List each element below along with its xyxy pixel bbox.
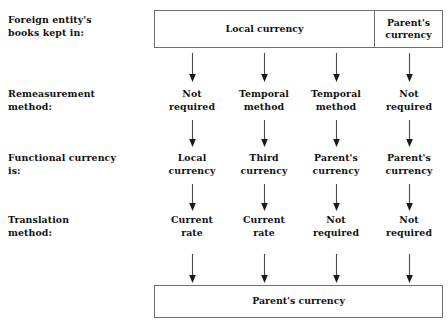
arrow-down-icon: [331, 120, 342, 148]
arrow-down-icon: [331, 254, 342, 284]
arrow-down-icon: [259, 120, 270, 148]
arrow-down-icon: [259, 184, 270, 212]
bottom-box-label: Parent's currency: [155, 286, 442, 317]
row-label-functional-currency: Functional currency is:: [8, 152, 148, 177]
functional-currency-col-4: Parent's currency: [367, 152, 448, 177]
arrow-down-icon: [331, 184, 342, 212]
arrow-down-icon: [404, 254, 415, 284]
row-label-books-kept-in: Foreign entity's books kept in:: [8, 14, 148, 39]
arrow-down-icon: [259, 254, 270, 284]
top-box-cell-local-currency: Local currency: [155, 11, 374, 47]
remeasurement-method-col-3: Temporal method: [294, 88, 378, 113]
arrow-down-icon: [331, 53, 342, 83]
remeasurement-method-col-4: Not required: [367, 88, 448, 113]
arrow-down-icon: [404, 184, 415, 212]
top-box-cell-parents-currency: Parent's currency: [375, 11, 442, 47]
arrow-down-icon: [187, 254, 198, 284]
functional-currency-col-3: Parent's currency: [294, 152, 378, 177]
row-label-translation-method: Translation method:: [8, 214, 148, 239]
books-kept-in-box: Local currency Parent's currency: [154, 10, 443, 48]
arrow-down-icon: [404, 53, 415, 83]
arrow-down-icon: [187, 184, 198, 212]
translation-method-col-4: Not required: [367, 214, 448, 239]
arrow-down-icon: [187, 53, 198, 83]
result-box: Parent's currency: [154, 285, 443, 318]
translation-method-col-3: Not required: [294, 214, 378, 239]
arrow-down-icon: [187, 120, 198, 148]
flowchart-diagram: Foreign entity's books kept in: Remeasur…: [0, 0, 448, 326]
row-label-remeasurement-method: Remeasurement method:: [8, 88, 148, 113]
arrow-down-icon: [404, 120, 415, 148]
arrow-down-icon: [259, 53, 270, 83]
